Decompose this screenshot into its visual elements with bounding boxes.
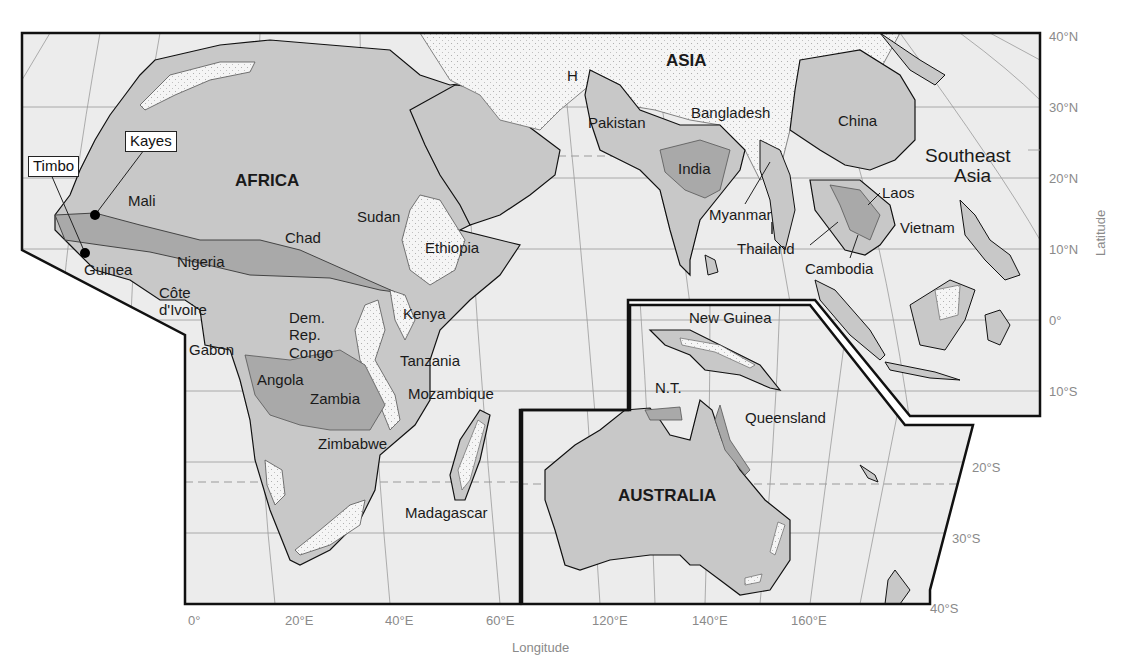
place-label-laos: Laos [882, 185, 915, 200]
place-label-china: China [838, 113, 877, 128]
callout-timbo: Timbo [28, 156, 79, 177]
lat-tick-10n: 10°N [1049, 243, 1078, 256]
place-label-angola: Angola [257, 372, 304, 387]
lat-tick-10s: 10°S [1049, 385, 1077, 398]
place-label-myanmar: Myanmar [709, 207, 772, 222]
place-label-dem-rep-congo-line2: Rep. [289, 327, 321, 342]
place-label-dem-rep-congo-line3: Congo [289, 345, 333, 360]
place-label-dem-rep-congo: Dem. [289, 310, 325, 325]
latitude-axis-title: Latitude [1094, 210, 1107, 256]
timbo-marker [80, 248, 90, 258]
place-label-kenya: Kenya [403, 306, 446, 321]
place-label-gabon: Gabon [189, 342, 234, 357]
place-label-guinea: Guinea [84, 262, 132, 277]
place-label-queensland: Queensland [745, 410, 826, 425]
lat-tick-20n: 20°N [1049, 172, 1078, 185]
lon-tick-20e: 20°E [285, 614, 313, 627]
longitude-axis-title: Longitude [512, 641, 569, 654]
callout-kayes: Kayes [125, 131, 177, 152]
region-label-southeast-asia: Southeast [925, 146, 1011, 165]
region-label-australia: AUSTRALIA [618, 487, 716, 504]
place-label-pakistan: Pakistan [588, 115, 646, 130]
map-canvas [0, 0, 1124, 669]
place-label-cote-divoire-line2: d'Ivoire [159, 302, 207, 317]
place-label-vietnam: Vietnam [900, 220, 955, 235]
lon-tick-120e: 120°E [592, 614, 628, 627]
region-label-asia: ASIA [666, 52, 707, 69]
place-label-tanzania: Tanzania [400, 353, 460, 368]
lat-tick-40n: 40°N [1049, 30, 1078, 43]
kayes-marker [90, 210, 100, 220]
place-label-thailand: Thailand [737, 241, 795, 256]
place-label-h: H [567, 68, 578, 83]
place-label-zambia: Zambia [310, 391, 360, 406]
place-label-mali: Mali [128, 193, 156, 208]
lat-tick-40s: 40°S [930, 602, 958, 615]
place-label-chad: Chad [285, 230, 321, 245]
place-label-zimbabwe: Zimbabwe [318, 436, 387, 451]
lon-tick-60e: 60°E [486, 614, 514, 627]
lon-tick-140e: 140°E [692, 614, 728, 627]
place-label-nt: N.T. [655, 380, 682, 395]
lon-tick-160e: 160°E [791, 614, 827, 627]
region-label-southeast-asia-line2: Asia [954, 166, 991, 185]
lon-tick-40e: 40°E [385, 614, 413, 627]
place-label-mozambique: Mozambique [408, 386, 494, 401]
place-label-cambodia: Cambodia [805, 261, 873, 276]
place-label-bangladesh: Bangladesh [691, 105, 770, 120]
region-label-africa: AFRICA [235, 172, 299, 189]
place-label-cote-divoire: Côte [159, 285, 191, 300]
lat-tick-0: 0° [1049, 314, 1061, 327]
place-label-india: India [678, 161, 711, 176]
place-label-madagascar: Madagascar [405, 505, 488, 520]
lat-tick-30s: 30°S [952, 532, 980, 545]
place-label-ethiopia: Ethiopia [425, 240, 479, 255]
lat-tick-30n: 30°N [1049, 101, 1078, 114]
lon-tick-0: 0° [188, 614, 200, 627]
place-label-nigeria: Nigeria [177, 254, 225, 269]
place-label-new-guinea: New Guinea [689, 310, 772, 325]
place-label-sudan: Sudan [357, 209, 400, 224]
lat-tick-20s: 20°S [972, 461, 1000, 474]
